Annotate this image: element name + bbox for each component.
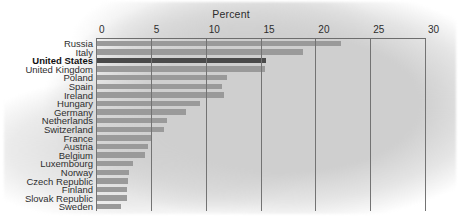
bar-germany: [96, 109, 186, 114]
x-tick-label-25: 25: [370, 24, 384, 35]
x-tick-label-10: 10: [206, 24, 220, 35]
bar-belgium: [96, 152, 145, 157]
bar-russia: [96, 41, 341, 46]
gridline-15: [261, 39, 262, 211]
category-label-sweden: Sweden: [59, 202, 93, 212]
bar-austria: [96, 144, 148, 149]
bar-czech-republic: [96, 178, 128, 183]
percent-bar-chart: Percent 051015202530 RussiaItalyUnited S…: [0, 0, 462, 218]
bar-italy: [96, 49, 303, 54]
x-tick-label-0: 0: [96, 24, 105, 35]
bar-norway: [96, 170, 129, 175]
x-tick-label-15: 15: [261, 24, 275, 35]
bar-switzerland: [96, 127, 164, 132]
gridline-30: [425, 39, 426, 211]
gridline-10: [206, 39, 207, 211]
bar-luxembourg: [96, 161, 133, 166]
bar-slovak-republic: [96, 195, 127, 200]
gridline-20: [315, 39, 316, 211]
gridline-0: [96, 39, 97, 211]
bar-france: [96, 135, 152, 140]
gridline-5: [151, 39, 152, 211]
x-axis-tick-labels: 051015202530: [0, 24, 462, 39]
bar-united-states: [96, 58, 266, 63]
bar-netherlands: [96, 118, 167, 123]
plot-area: [96, 39, 426, 211]
bar-spain: [96, 84, 222, 89]
chart-title: Percent: [0, 8, 462, 20]
bar-poland: [96, 75, 227, 80]
x-tick-label-20: 20: [315, 24, 329, 35]
x-tick-label-30: 30: [425, 24, 439, 35]
category-axis-labels: RussiaItalyUnited StatesUnited KingdomPo…: [0, 39, 96, 211]
x-tick-label-5: 5: [151, 24, 160, 35]
bar-hungary: [96, 101, 200, 106]
gridline-25: [370, 39, 371, 211]
bar-finland: [96, 187, 127, 192]
bar-sweden: [96, 204, 121, 209]
bar-united-kingdom: [96, 66, 265, 71]
